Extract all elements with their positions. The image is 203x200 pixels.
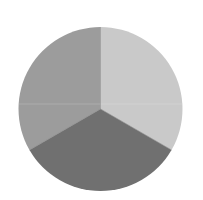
pie-chart xyxy=(0,0,203,200)
